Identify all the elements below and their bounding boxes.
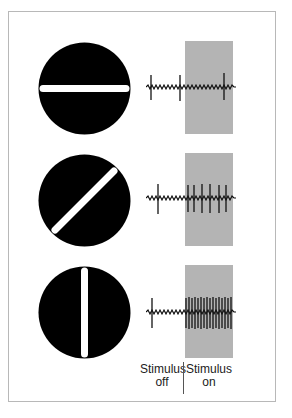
vertical-bar-stimulus-icon bbox=[37, 265, 132, 360]
horizontal-bar-stimulus-icon bbox=[37, 41, 132, 136]
stimulus-off-label: Stimulus off bbox=[140, 363, 184, 389]
stimulus-off-line2: off bbox=[140, 376, 184, 389]
stimulus-on-line2: on bbox=[186, 376, 232, 389]
spike-trace-1 bbox=[146, 67, 236, 107]
stimulus-on-label: Stimulus on bbox=[186, 363, 232, 389]
diagonal-bar-stimulus-icon bbox=[37, 153, 132, 248]
stimulus-divider bbox=[183, 362, 184, 394]
spike-trace-2 bbox=[146, 178, 236, 218]
spike-trace-3 bbox=[146, 292, 236, 332]
